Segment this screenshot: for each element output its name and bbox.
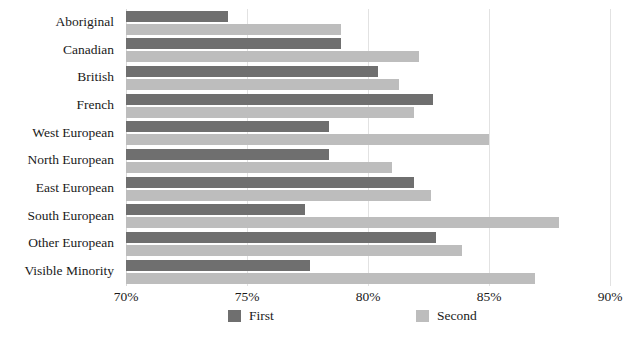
- y-axis-label-french: French: [0, 98, 114, 112]
- legend-item-first[interactable]: First: [228, 308, 274, 324]
- bar-first: [126, 66, 378, 77]
- bar-second: [126, 79, 399, 90]
- bar-first: [126, 121, 329, 132]
- y-axis-label-west-european: West European: [0, 126, 114, 140]
- bar-second: [126, 51, 419, 62]
- bar-second: [126, 134, 489, 145]
- bar-group: [126, 11, 610, 39]
- bar-group: [126, 94, 610, 122]
- x-tick-label-90pct: 90%: [598, 288, 623, 306]
- bar-first: [126, 94, 433, 105]
- x-tick-label-75pct: 75%: [235, 288, 260, 306]
- x-axis-tick-labels: 70%75%80%85%90%: [0, 288, 632, 310]
- bar-group: [126, 232, 610, 260]
- bar-first: [126, 204, 305, 215]
- y-axis-label-visible-minority: Visible Minority: [0, 264, 114, 278]
- chart-legend: FirstSecond: [0, 308, 632, 328]
- bar-group: [126, 204, 610, 232]
- bar-first: [126, 260, 310, 271]
- bar-second: [126, 245, 462, 256]
- y-axis-label-other-european: Other European: [0, 236, 114, 250]
- y-axis-label-canadian: Canadian: [0, 43, 114, 57]
- legend-item-second[interactable]: Second: [416, 308, 477, 324]
- bar-first: [126, 232, 436, 243]
- bar-first: [126, 149, 329, 160]
- bar-second: [126, 273, 535, 284]
- y-axis-label-south-european: South European: [0, 209, 114, 223]
- bar-second: [126, 162, 392, 173]
- bar-first: [126, 177, 414, 188]
- y-axis-label-east-european: East European: [0, 181, 114, 195]
- bar-group: [126, 177, 610, 205]
- bar-group: [126, 66, 610, 94]
- bar-second: [126, 24, 341, 35]
- bar-first: [126, 38, 341, 49]
- bar-chart: AboriginalCanadianBritishFrenchWest Euro…: [0, 0, 632, 349]
- bar-group: [126, 149, 610, 177]
- legend-swatch-icon: [228, 310, 241, 322]
- y-axis-category-labels: AboriginalCanadianBritishFrenchWest Euro…: [0, 9, 120, 286]
- bar-second: [126, 190, 431, 201]
- y-axis-label-british: British: [0, 70, 114, 84]
- plot-area: [126, 9, 610, 286]
- legend-label: Second: [437, 308, 477, 324]
- y-axis-label-aboriginal: Aboriginal: [0, 15, 114, 29]
- legend-label: First: [249, 308, 274, 324]
- bar-group: [126, 121, 610, 149]
- bar-first: [126, 11, 228, 22]
- x-tick-label-70pct: 70%: [114, 288, 139, 306]
- legend-swatch-icon: [416, 310, 429, 322]
- gridline-90pct: [610, 9, 611, 286]
- y-axis-label-north-european: North European: [0, 153, 114, 167]
- bar-group: [126, 38, 610, 66]
- bar-second: [126, 217, 559, 228]
- bar-group: [126, 260, 610, 288]
- bar-second: [126, 107, 414, 118]
- x-tick-label-85pct: 85%: [477, 288, 502, 306]
- x-tick-label-80pct: 80%: [356, 288, 381, 306]
